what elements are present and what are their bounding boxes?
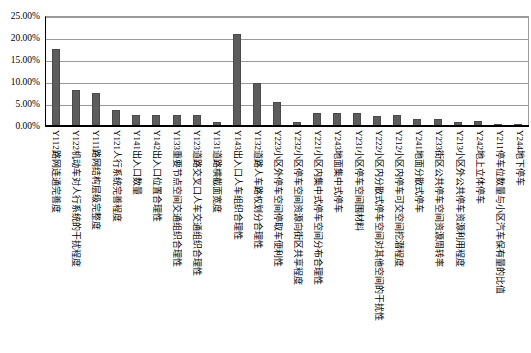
- x-axis-tick-label: Y111路网结构层级完整度: [91, 130, 100, 230]
- x-label-slot: Y131道路横截面宽度: [206, 128, 226, 353]
- x-axis-tick-label: Y223小区外停车空间停取车便利性: [272, 130, 281, 267]
- x-axis-tick-label: Y143出入口人车组织合理性: [232, 130, 241, 240]
- y-axis: 0.00%5.00%10.00%15.00%20.00%25.00%: [0, 0, 44, 132]
- x-axis-labels: Y112路网连通完善度Y122机动车对人行系统的干扰程度Y111路网结构层级完整…: [45, 128, 529, 353]
- x-label-slot: Y242地上立体停车: [469, 128, 489, 353]
- bar-series: [46, 17, 528, 126]
- bar[interactable]: [233, 34, 241, 126]
- x-label-slot: Y141出入口数量: [126, 128, 146, 353]
- x-axis-tick-label: Y222小区内分散式停车空间对其他空间的干扰性: [373, 130, 382, 321]
- x-axis-tick-label: Y233街区公共停车空间资源周转率: [434, 130, 443, 267]
- bar-slot: [207, 17, 227, 126]
- x-axis-tick-label: Y141出入口数量: [131, 130, 140, 195]
- x-axis-tick-label: Y123道路交叉口人车交通组织合理性: [192, 130, 201, 276]
- x-axis-tick-label: Y132道路人车路权划分合理性: [252, 130, 261, 249]
- x-label-slot: Y143出入口人车组织合理性: [227, 128, 247, 353]
- x-label-slot: Y233街区公共停车空间资源周转率: [428, 128, 448, 353]
- bar[interactable]: [52, 49, 60, 126]
- x-axis-tick-label: Y131道路横截面宽度: [212, 130, 221, 213]
- bar[interactable]: [72, 90, 80, 126]
- x-axis-tick-label: Y213小区外公共停车资源利用程度: [454, 130, 463, 267]
- x-label-slot: Y142出入口位置合理性: [146, 128, 166, 353]
- y-axis-tick-label: 25.00%: [11, 11, 40, 21]
- x-label-slot: Y213小区外公共停车资源利用程度: [448, 128, 468, 353]
- x-label-slot: Y223小区外停车空间停取车便利性: [267, 128, 287, 353]
- x-label-slot: Y212小区内停车可交空间挖潜程度: [388, 128, 408, 353]
- x-label-slot: Y111路网结构层级完整度: [85, 128, 105, 353]
- bar-slot: [126, 17, 146, 126]
- bar-slot: [407, 17, 427, 126]
- x-label-slot: Y222小区内分散式停车空间对其他空间的干扰性: [368, 128, 388, 353]
- bar[interactable]: [253, 83, 261, 126]
- bar-slot: [46, 17, 66, 126]
- bar-slot: [427, 17, 447, 126]
- x-axis-tick-label: Y121人行系统完善程度: [111, 130, 120, 222]
- x-label-slot: Y112路网连通完善度: [45, 128, 65, 353]
- x-axis-tick-label: Y243地面集中式停车: [333, 130, 342, 213]
- bar-slot: [66, 17, 86, 126]
- x-axis-tick-label: Y242地上立体停车: [474, 130, 483, 204]
- x-label-slot: Y232小区停车空间资源向街区共享程度: [287, 128, 307, 353]
- x-axis-tick-label: Y241地面分散式停车: [414, 130, 423, 213]
- y-axis-tick-label: 15.00%: [11, 55, 40, 65]
- x-label-slot: Y221小区内集中式停车空间分布合理性: [307, 128, 327, 353]
- plot-area: [45, 16, 529, 126]
- y-axis-tick-label: 0.00%: [15, 121, 40, 131]
- y-axis-tick-label: 20.00%: [11, 33, 40, 43]
- bar-slot: [307, 17, 327, 126]
- bar-slot: [347, 17, 367, 126]
- bar-slot: [267, 17, 287, 126]
- bar[interactable]: [273, 102, 281, 126]
- x-label-slot: Y244地下停车: [509, 128, 529, 353]
- x-label-slot: Y241地面分散式停车: [408, 128, 428, 353]
- x-axis-tick-label: Y232小区停车空间资源向街区共享程度: [293, 130, 302, 285]
- bar-slot: [86, 17, 106, 126]
- x-axis-line: [45, 125, 529, 127]
- bar-slot: [187, 17, 207, 126]
- bar-chart: 0.00%5.00%10.00%15.00%20.00%25.00% Y112路…: [0, 0, 531, 353]
- x-label-slot: Y231小区停车空间围材料: [348, 128, 368, 353]
- x-label-slot: Y123道路交叉口人车交通组织合理性: [186, 128, 206, 353]
- bar[interactable]: [112, 110, 120, 126]
- x-label-slot: Y211停车位数量与小区汽车保有量的比值: [489, 128, 509, 353]
- bar-slot: [106, 17, 126, 126]
- x-axis-tick-label: Y133重要节点空间交通组织合理性: [172, 130, 181, 267]
- bar-slot: [508, 17, 528, 126]
- x-label-slot: Y132道路人车路权划分合理性: [247, 128, 267, 353]
- bar-slot: [367, 17, 387, 126]
- bar-slot: [166, 17, 186, 126]
- x-label-slot: Y133重要节点空间交通组织合理性: [166, 128, 186, 353]
- x-axis-tick-label: Y231小区停车空间围材料: [353, 130, 362, 231]
- bar-slot: [227, 17, 247, 126]
- x-axis-tick-label: Y122机动车对人行系统的干扰程度: [71, 130, 80, 267]
- y-axis-tick-label: 5.00%: [15, 99, 40, 109]
- bar-slot: [488, 17, 508, 126]
- x-label-slot: Y121人行系统完善程度: [106, 128, 126, 353]
- x-axis-tick-label: Y221小区内集中式停车空间分布合理性: [313, 130, 322, 285]
- x-label-slot: Y243地面集中式停车: [327, 128, 347, 353]
- x-axis-tick-label: Y211停车位数量与小区汽车保有量的比值: [494, 130, 503, 294]
- x-axis-tick-label: Y142出入口位置合理性: [151, 130, 160, 222]
- bar-slot: [287, 17, 307, 126]
- x-axis-tick-label: Y244地下停车: [515, 130, 524, 186]
- bar-slot: [468, 17, 488, 126]
- bar[interactable]: [92, 93, 100, 126]
- bar-slot: [146, 17, 166, 126]
- y-axis-tick-label: 10.00%: [11, 77, 40, 87]
- bar-slot: [327, 17, 347, 126]
- bar-slot: [448, 17, 468, 126]
- x-axis-tick-label: Y212小区内停车可交空间挖潜程度: [394, 130, 403, 267]
- x-axis-tick-label: Y112路网连通完善度: [51, 130, 60, 213]
- bar-slot: [247, 17, 267, 126]
- bar-slot: [387, 17, 407, 126]
- x-label-slot: Y122机动车对人行系统的干扰程度: [65, 128, 85, 353]
